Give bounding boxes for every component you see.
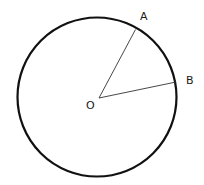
radius-oa (99, 30, 136, 99)
circle (18, 18, 177, 177)
radius-ob (99, 82, 176, 98)
label-o: O (86, 99, 95, 112)
diagram-svg: A B O (0, 0, 204, 185)
label-b: B (186, 74, 194, 87)
label-a: A (140, 10, 148, 23)
circle-diagram: A B O (0, 0, 204, 185)
